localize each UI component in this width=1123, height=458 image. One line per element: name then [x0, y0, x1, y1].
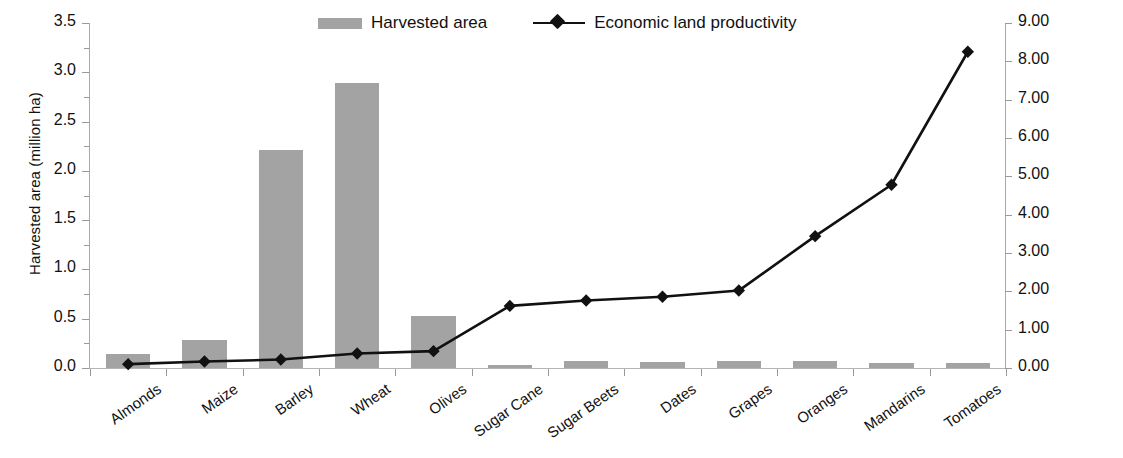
line-marker-diamond: [427, 345, 439, 357]
y-axis-right-tick-mark: [1005, 253, 1012, 254]
x-axis-tick-mark: [166, 369, 167, 376]
y-axis-right-tick-mark: [1005, 176, 1012, 177]
y-axis-right-tick-label: 6.00: [1018, 127, 1068, 145]
y-axis-left-tick-label: 0.5: [32, 308, 76, 326]
line-series-economic-land-productivity: [90, 23, 1006, 368]
x-axis-tick-mark: [930, 369, 931, 376]
y-axis-right-tick-mark: [1005, 330, 1012, 331]
x-axis-tick-mark: [472, 369, 473, 376]
economic-land-productivity-chart: Harvested area Economic land productivit…: [0, 0, 1123, 458]
y-axis-right-tick-label: 3.00: [1018, 242, 1068, 260]
line-path: [128, 52, 968, 364]
x-axis-category-label: Tomatoes: [941, 380, 1004, 431]
x-axis-tick-mark: [90, 369, 91, 376]
y-axis-right-tick-label: 0.00: [1018, 357, 1068, 375]
y-axis-left-minor-tick: [84, 48, 89, 49]
x-axis-tick-mark: [319, 369, 320, 376]
y-axis-left-minor-tick: [84, 245, 89, 246]
y-axis-left-minor-tick: [84, 196, 89, 197]
line-marker-diamond: [580, 294, 592, 306]
x-axis-category-label: Almonds: [107, 380, 165, 427]
x-axis-tick-mark: [777, 369, 778, 376]
y-axis-left-tick-label: 3.0: [32, 61, 76, 79]
x-axis-tick-mark: [853, 369, 854, 376]
y-axis-right-tick-mark: [1005, 61, 1012, 62]
y-axis-left-minor-tick: [84, 294, 89, 295]
y-axis-right-tick-mark: [1005, 100, 1012, 101]
x-axis-category-label: Oranges: [794, 380, 851, 427]
y-axis-right-tick-label: 4.00: [1018, 204, 1068, 222]
x-axis-category-label: Grapes: [725, 380, 775, 422]
y-axis-right-tick-mark: [1005, 23, 1012, 24]
y-axis-left-tick-mark: [82, 23, 89, 24]
x-axis-category-label: Mandarins: [860, 380, 927, 434]
y-axis-left-tick-mark: [82, 368, 89, 369]
line-marker-diamond: [962, 46, 974, 58]
line-marker-diamond: [504, 300, 516, 312]
y-axis-right-tick-mark: [1005, 138, 1012, 139]
x-axis-category-label: Olives: [425, 380, 469, 418]
y-axis-right-tick-label: 1.00: [1018, 319, 1068, 337]
x-axis-tick-mark: [624, 369, 625, 376]
y-axis-right-tick-mark: [1005, 291, 1012, 292]
x-axis-tick-mark: [395, 369, 396, 376]
x-axis-tick-mark: [243, 369, 244, 376]
y-axis-left-tick-label: 2.0: [32, 160, 76, 178]
y-axis-left-minor-tick: [84, 97, 89, 98]
x-axis-category-label: Maize: [198, 380, 241, 417]
y-axis-left-tick-label: 1.0: [32, 258, 76, 276]
y-axis-left-minor-tick: [84, 343, 89, 344]
x-axis-tick-mark: [548, 369, 549, 376]
y-axis-left-tick-mark: [82, 269, 89, 270]
line-marker-diamond: [275, 353, 287, 365]
y-axis-right-tick-label: 9.00: [1018, 12, 1068, 30]
y-axis-left-tick-label: 1.5: [32, 209, 76, 227]
y-axis-left-tick-mark: [82, 72, 89, 73]
y-axis-right-tick-mark: [1005, 215, 1012, 216]
y-axis-left-minor-tick: [84, 146, 89, 147]
x-axis-tick-mark: [701, 369, 702, 376]
y-axis-left-tick-mark: [82, 220, 89, 221]
y-axis-left-tick-label: 0.0: [32, 357, 76, 375]
x-axis-category-label: Sugar Beets: [544, 380, 621, 441]
line-marker-diamond: [351, 347, 363, 359]
x-axis-category-label: Wheat: [348, 380, 393, 419]
y-axis-left-tick-mark: [82, 122, 89, 123]
y-axis-left-tick-label: 3.5: [32, 12, 76, 30]
y-axis-right-tick-label: 8.00: [1018, 50, 1068, 68]
y-axis-left-tick-label: 2.5: [32, 111, 76, 129]
x-axis-category-label: Sugar Cane: [470, 380, 545, 440]
y-axis-right-tick-label: 2.00: [1018, 280, 1068, 298]
y-axis-right-tick-label: 5.00: [1018, 165, 1068, 183]
x-axis-tick-mark: [1006, 369, 1007, 376]
x-axis-category-label: Barley: [272, 380, 317, 418]
x-axis-category-label: Dates: [657, 380, 699, 416]
line-marker-diamond: [656, 291, 668, 303]
y-axis-left-tick-mark: [82, 319, 89, 320]
y-axis-right-tick-label: 7.00: [1018, 89, 1068, 107]
line-marker-diamond: [198, 355, 210, 367]
y-axis-left-tick-mark: [82, 171, 89, 172]
plot-area: [90, 23, 1006, 368]
